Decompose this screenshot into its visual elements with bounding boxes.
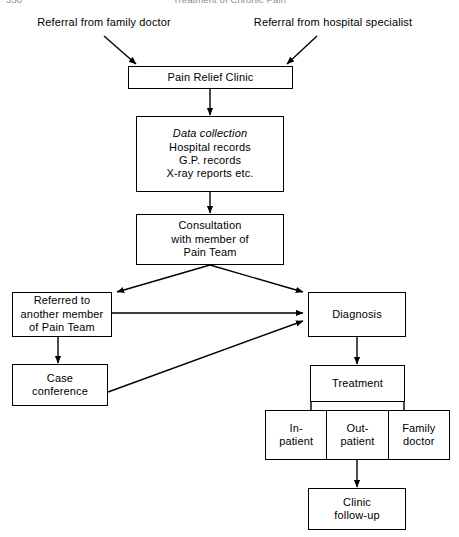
node-treatment-destinations: In- patient Out- patient Family doctor [265, 410, 450, 460]
caption-hospital-line1: Referral from [254, 16, 320, 28]
node-diagnosis[interactable]: Diagnosis [308, 292, 406, 337]
treatment-label: Treatment [332, 377, 383, 390]
caption-referral-hospital-specialist: Referral from hospital specialist [253, 16, 413, 29]
consultation-line1: Consultation [179, 219, 242, 232]
data-collection-line2: Hospital records [169, 141, 251, 154]
referred-to-line2: another member [21, 308, 104, 321]
data-collection-line3: G.P. records [179, 154, 241, 167]
edge-consultation-to-referred [117, 265, 210, 292]
node-consultation[interactable]: Consultation with member of Pain Team [136, 214, 284, 265]
node-out-patient[interactable]: Out- patient [326, 411, 387, 459]
caption-family-line2: family doctor [107, 16, 171, 28]
case-conference-line1: Case [47, 372, 73, 385]
consultation-line2: with member of [171, 233, 248, 246]
out-patient-line1: Out- [346, 422, 368, 435]
in-patient-line2: patient [279, 435, 313, 448]
edge-case-to-diagnosis [108, 321, 303, 392]
node-pain-relief-clinic[interactable]: Pain Relief Clinic [128, 66, 293, 89]
edge-hospital-referral [287, 36, 317, 64]
case-conference-line2: conference [32, 385, 88, 398]
node-referred-to-another-member[interactable]: Referred to another member of Pain Team [12, 292, 112, 337]
pain-relief-clinic-label: Pain Relief Clinic [168, 71, 254, 84]
diagnosis-label: Diagnosis [332, 308, 382, 321]
flowchart-page: 330 Treatment of Chronic Pain [0, 0, 459, 537]
node-family-doctor[interactable]: Family doctor [388, 411, 449, 459]
family-doctor-line1: Family [402, 422, 435, 435]
node-case-conference[interactable]: Case conference [12, 364, 108, 406]
consultation-line3: Pain Team [183, 246, 236, 259]
out-patient-line2: patient [340, 435, 374, 448]
node-in-patient[interactable]: In- patient [266, 411, 326, 459]
caption-family-line1: Referral from [37, 16, 103, 28]
family-doctor-line2: doctor [403, 435, 434, 448]
clinic-follow-up-line1: Clinic [343, 496, 371, 509]
node-treatment[interactable]: Treatment [310, 365, 405, 402]
caption-referral-family-doctor: Referral from family doctor [36, 16, 172, 29]
referred-to-line1: Referred to [34, 294, 91, 307]
referred-to-line3: of Pain Team [29, 321, 95, 334]
in-patient-line1: In- [290, 422, 303, 435]
edge-consultation-to-diagnosis [210, 265, 303, 292]
edge-family-referral [104, 36, 136, 64]
node-data-collection[interactable]: Data collection Hospital records G.P. re… [136, 116, 284, 192]
clinic-follow-up-line2: follow-up [334, 509, 379, 522]
data-collection-line4: X-ray reports etc. [166, 167, 253, 180]
caption-hospital-line2: hospital specialist [323, 16, 412, 28]
data-collection-heading: Data collection [173, 127, 247, 140]
node-clinic-follow-up[interactable]: Clinic follow-up [308, 488, 406, 530]
